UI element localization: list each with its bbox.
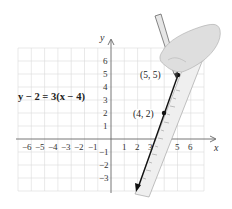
hand-pencil-illustration <box>155 14 220 80</box>
x-axis-label: x <box>214 142 218 153</box>
y-axis-label: y <box>100 32 104 43</box>
y-tick-label: −3 <box>99 174 109 183</box>
x-tick-label: −4 <box>48 143 58 152</box>
y-tick-label: 2 <box>103 109 108 118</box>
point-label-4-2: (4, 2) <box>133 109 154 119</box>
x-tick-label: −2 <box>74 143 84 152</box>
y-tick-label: 3 <box>103 96 108 105</box>
graph-figure: y x −6 −5 −4 −3 −2 −1 1 2 3 4 5 6 6 5 4 … <box>0 0 232 209</box>
y-tick-label: 6 <box>103 57 108 66</box>
x-tick-label: 5 <box>175 143 180 152</box>
x-tick-label: −3 <box>61 143 71 152</box>
y-tick-label: −2 <box>99 161 109 170</box>
x-tick-label: 6 <box>188 143 193 152</box>
y-tick-label: 5 <box>103 70 108 79</box>
x-tick-label: −5 <box>35 143 45 152</box>
y-tick-label: −1 <box>99 148 109 157</box>
point-4-2 <box>162 111 166 115</box>
coordinate-plane <box>0 0 232 209</box>
x-tick-label: −1 <box>88 143 98 152</box>
y-tick-label: 1 <box>103 122 108 131</box>
x-tick-label: −6 <box>22 143 32 152</box>
x-tick-label: 1 <box>122 143 127 152</box>
x-tick-label: 2 <box>135 143 140 152</box>
point-label-5-5: (5, 5) <box>140 70 161 80</box>
equation-label: y − 2 = 3(x − 4) <box>18 91 85 102</box>
y-tick-label: 4 <box>103 83 108 92</box>
x-tick-label: 3 <box>148 143 153 152</box>
